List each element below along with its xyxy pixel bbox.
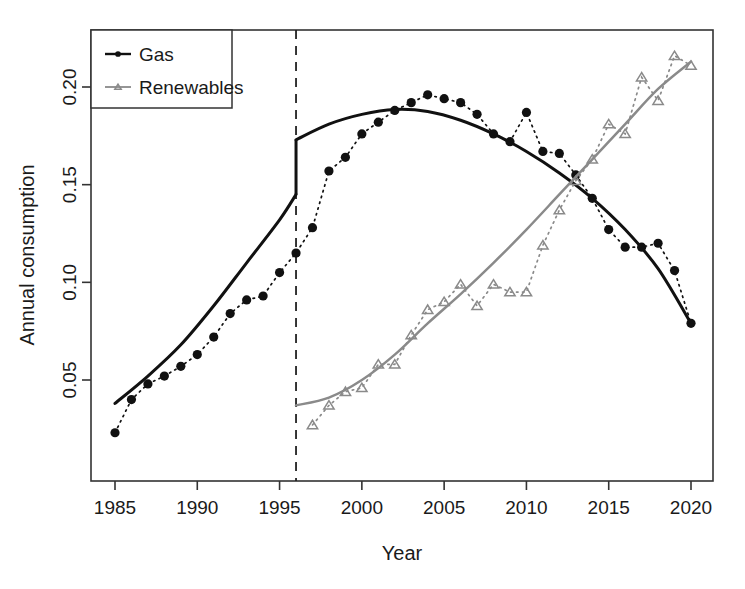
data-point-marker xyxy=(242,295,251,304)
x-tick-label: 1985 xyxy=(94,497,136,518)
data-point-marker xyxy=(291,248,300,257)
y-tick-label: 0.20 xyxy=(59,69,80,106)
data-point-marker xyxy=(176,362,185,371)
data-point-marker xyxy=(357,129,366,138)
data-point-marker xyxy=(341,153,350,162)
chart-legend: GasRenewables xyxy=(91,30,244,108)
data-point-marker xyxy=(670,266,679,275)
legend-label: Renewables xyxy=(139,77,244,98)
regression-discontinuity-chart: 19851990199520002005201020152020 0.050.1… xyxy=(0,0,745,589)
data-point-marker xyxy=(653,239,662,248)
data-point-marker xyxy=(588,194,597,203)
legend-label: Gas xyxy=(139,44,174,65)
data-point-marker xyxy=(423,90,432,99)
data-point-marker xyxy=(193,350,202,359)
data-point-marker xyxy=(374,118,383,127)
data-point-marker xyxy=(160,371,169,380)
x-tick-label: 1990 xyxy=(176,497,218,518)
x-tick-label: 2005 xyxy=(423,497,465,518)
data-point-marker xyxy=(505,137,514,146)
data-point-marker xyxy=(456,98,465,107)
data-point-marker xyxy=(621,243,630,252)
data-point-marker xyxy=(275,268,284,277)
x-tick-label: 2020 xyxy=(670,497,712,518)
data-point-marker xyxy=(259,291,268,300)
y-tick-label: 0.10 xyxy=(59,264,80,301)
x-tick-label: 2015 xyxy=(588,497,630,518)
data-point-marker xyxy=(308,223,317,232)
data-point-marker xyxy=(489,129,498,138)
y-tick-label: 0.15 xyxy=(59,166,80,203)
data-point-marker xyxy=(440,94,449,103)
data-point-marker xyxy=(472,110,481,119)
data-point-marker xyxy=(555,149,564,158)
data-point-marker xyxy=(127,395,136,404)
data-point-marker xyxy=(115,51,121,57)
data-point-marker xyxy=(324,166,333,175)
x-tick-label: 2000 xyxy=(341,497,383,518)
x-tick-label: 1995 xyxy=(258,497,300,518)
data-point-marker xyxy=(522,108,531,117)
y-axis-title: Annual consumption xyxy=(16,164,38,345)
data-point-marker xyxy=(407,98,416,107)
data-point-marker xyxy=(390,106,399,115)
y-tick-label: 0.05 xyxy=(59,362,80,399)
x-tick-label: 2010 xyxy=(505,497,547,518)
data-point-marker xyxy=(604,225,613,234)
data-point-marker xyxy=(686,319,695,328)
data-point-marker xyxy=(226,309,235,318)
data-point-marker xyxy=(209,332,218,341)
x-axis-title: Year xyxy=(382,542,423,564)
data-point-marker xyxy=(143,379,152,388)
data-point-marker xyxy=(637,243,646,252)
data-point-marker xyxy=(538,147,547,156)
data-point-marker xyxy=(110,428,119,437)
